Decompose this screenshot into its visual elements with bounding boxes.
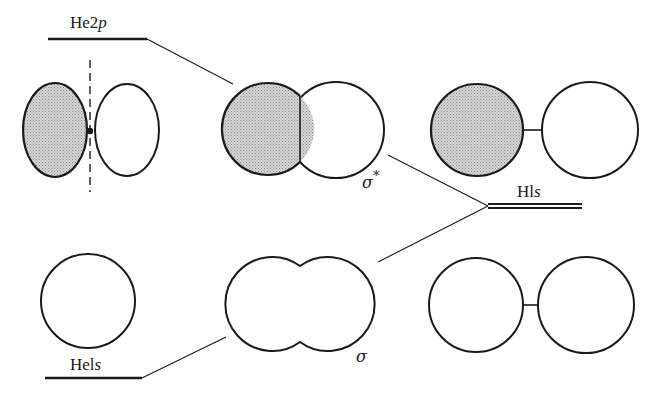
- h1s-label: Hls: [517, 182, 541, 201]
- he1s-label: Hels: [70, 355, 102, 374]
- nucleus-dot: [87, 128, 93, 134]
- bonding-atomic-combination: [429, 257, 634, 353]
- sigma-star-orbital: σ*: [222, 82, 384, 192]
- antibonding-atomic-combination: [431, 82, 638, 178]
- shaded-lobe: [431, 84, 523, 176]
- he2p-label: He2p: [70, 13, 107, 32]
- sigma-label: σ: [356, 347, 368, 366]
- sigma-star-label: σ*: [362, 168, 380, 192]
- he2p-level: He2p: [48, 13, 233, 84]
- he2p-correlation-line: [147, 39, 233, 84]
- right-atom-circle: [538, 257, 634, 353]
- s-orbital-circle: [41, 254, 135, 348]
- he1s-correlation-line: [142, 337, 226, 378]
- shaded-lobe: [23, 83, 87, 177]
- white-lobe: [95, 84, 159, 176]
- h1s-to-sigma-line: [378, 206, 488, 262]
- bonding-outline: [225, 257, 374, 351]
- sigma-orbital: σ: [225, 257, 374, 366]
- left-atom-circle: [429, 258, 523, 352]
- white-lobe: [542, 82, 638, 178]
- mo-diagram: He2p σ* Hls Hels σ: [0, 0, 646, 396]
- he2p-orbital: [23, 60, 159, 192]
- he1s-orbital: [41, 254, 135, 348]
